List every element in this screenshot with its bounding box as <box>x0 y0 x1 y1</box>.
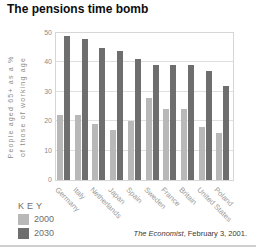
bar-2000-italy <box>75 115 81 180</box>
chart-title: The pensions time bomb <box>7 2 148 16</box>
bar-2030-britain <box>188 65 194 180</box>
y-tick-40: 40 <box>32 58 52 66</box>
bar-2030-germany <box>64 36 70 180</box>
legend-swatch-2030 <box>18 228 29 239</box>
bar-2030-united-states <box>206 71 212 180</box>
bar-2030-sweden <box>153 65 159 180</box>
bar-2030-poland <box>223 86 229 180</box>
bar-2000-spain <box>128 121 134 180</box>
bar-2000-poland <box>216 133 222 180</box>
source-publication: The Economist <box>134 229 184 238</box>
x-label-spain: Spain <box>124 186 143 205</box>
y-axis-label-line2: of those of working age <box>17 31 29 183</box>
legend-title: KEY <box>18 201 45 211</box>
bar-2000-france <box>163 109 169 180</box>
bar-2000-germany <box>57 115 63 180</box>
bar-2030-japan <box>117 51 123 180</box>
legend-label-2030: 2030 <box>34 228 54 239</box>
y-axis-label-text: People aged 65+ as a % of those of worki… <box>5 31 31 183</box>
source-date: , February 3, 2001. <box>184 229 247 238</box>
y-tick-50: 50 <box>32 29 52 37</box>
y-tick-20: 20 <box>32 117 52 125</box>
bar-2030-netherlands <box>99 48 105 180</box>
bar-2000-sweden <box>146 98 152 180</box>
bar-2000-united-states <box>199 127 205 180</box>
y-tick-10: 10 <box>32 147 52 155</box>
plot-area <box>55 32 234 181</box>
bar-2030-spain <box>135 59 141 180</box>
y-axis-label-line1: People aged 65+ as a % <box>5 31 17 183</box>
legend-swatch-2000 <box>18 214 29 225</box>
bar-2030-france <box>170 65 176 180</box>
bar-2000-netherlands <box>92 124 98 180</box>
legend-label-2000: 2000 <box>34 214 54 225</box>
y-axis-label: People aged 65+ as a % of those of worki… <box>5 31 31 183</box>
y-tick-0: 0 <box>32 176 52 184</box>
source-citation: The Economist, February 3, 2001. <box>134 229 247 238</box>
y-tick-30: 30 <box>32 88 52 96</box>
pensions-chart-card: The pensions time bomb People aged 65+ a… <box>0 0 256 252</box>
bar-2030-italy <box>82 39 88 180</box>
bar-2000-japan <box>110 130 116 180</box>
bottom-divider <box>0 245 256 247</box>
bar-2000-britain <box>181 109 187 180</box>
